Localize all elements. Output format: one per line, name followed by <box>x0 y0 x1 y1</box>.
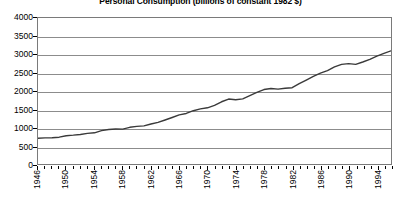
x-axis-tick-mark <box>257 166 258 169</box>
x-axis-tick-mark <box>286 166 287 169</box>
x-axis-tick-mark <box>87 166 88 169</box>
y-axis-tick-label: 1500 <box>14 105 33 115</box>
x-axis-tick-label: 1966 <box>175 170 184 189</box>
x-axis-tick-mark <box>200 166 201 169</box>
x-axis-tick-label: 1946 <box>33 170 42 189</box>
y-axis-tick-label: 500 <box>19 142 33 152</box>
x-axis-tick-mark <box>144 166 145 169</box>
y-axis-tick-label: 3500 <box>14 31 33 41</box>
y-axis-tick-label: 3000 <box>14 49 33 59</box>
x-axis-tick-mark <box>314 166 315 169</box>
plot-area <box>37 17 392 165</box>
x-axis-tick-mark <box>165 166 166 169</box>
x-axis-tick-mark <box>193 166 194 169</box>
x-axis-tick-mark <box>136 166 137 169</box>
x-axis-tick-label: 1958 <box>118 170 127 189</box>
x-axis-tick-label: 1986 <box>317 170 326 189</box>
x-axis-tick-label: 1962 <box>147 170 156 189</box>
x-axis-tick-mark <box>73 166 74 169</box>
x-axis-tick-mark <box>250 166 251 169</box>
x-axis-tick-mark <box>58 166 59 169</box>
x-axis-tick-mark <box>80 166 81 169</box>
x-axis-tick-label: 1994 <box>374 170 383 189</box>
x-axis-tick-mark <box>392 166 393 169</box>
y-axis-tick-label: 4000 <box>14 12 33 22</box>
chart-container: Personal Consumption (billions of consta… <box>0 0 401 200</box>
x-axis-tick-label: 1978 <box>260 170 269 189</box>
x-axis-tick-mark <box>342 166 343 169</box>
data-line <box>38 51 391 138</box>
x-axis-tick-mark <box>115 166 116 169</box>
x-axis-tick-label: 1990 <box>345 170 354 189</box>
x-axis-tick-mark <box>129 166 130 169</box>
x-axis-tick-label: 1982 <box>289 170 298 189</box>
x-axis-tick-mark <box>229 166 230 169</box>
x-axis-tick-mark <box>328 166 329 169</box>
x-axis-tick-label: 1954 <box>90 170 99 189</box>
x-axis-tick-label: 1974 <box>232 170 241 189</box>
x-axis-tick-mark <box>186 166 187 169</box>
x-axis-tick-mark <box>385 166 386 169</box>
x-axis-tick-mark <box>278 166 279 169</box>
x-axis-tick-label: 1970 <box>203 170 212 189</box>
y-axis-labels: 40003500300025002000150010005000 <box>0 17 33 165</box>
x-axis-tick-mark <box>335 166 336 169</box>
x-axis-tick-label: 1950 <box>61 170 70 189</box>
y-axis-tick-label: 2500 <box>14 68 33 78</box>
x-axis-tick-mark <box>371 166 372 169</box>
y-axis-tick-label: 2000 <box>14 86 33 96</box>
y-axis-tick-label: 1000 <box>14 123 33 133</box>
chart-title: Personal Consumption (billions of consta… <box>0 0 401 6</box>
x-axis-tick-mark <box>108 166 109 169</box>
x-axis-tick-mark <box>364 166 365 169</box>
x-axis-tick-mark <box>222 166 223 169</box>
x-axis-tick-mark <box>215 166 216 169</box>
x-axis-tick-mark <box>101 166 102 169</box>
x-axis-labels: 1946195019541958196219661970197419781982… <box>37 170 392 200</box>
x-axis-tick-mark <box>243 166 244 169</box>
consumption-line-series <box>38 18 391 164</box>
x-axis-tick-mark <box>172 166 173 169</box>
x-axis-tick-mark <box>271 166 272 169</box>
x-axis-tick-mark <box>300 166 301 169</box>
x-axis-tick-mark <box>307 166 308 169</box>
x-axis-tick-mark <box>44 166 45 169</box>
x-axis-tick-mark <box>357 166 358 169</box>
x-axis-tick-mark <box>158 166 159 169</box>
x-axis-tick-mark <box>51 166 52 169</box>
